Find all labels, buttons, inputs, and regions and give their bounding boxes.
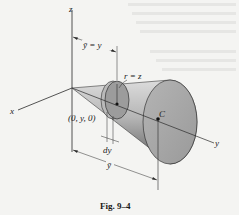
y-axis-label: y bbox=[214, 138, 219, 148]
disk-point-label: (0, y, 0) bbox=[68, 113, 96, 123]
centroid-label: C bbox=[159, 109, 166, 119]
z-axis-label: z bbox=[68, 4, 73, 14]
dy-label: dy bbox=[103, 145, 112, 155]
dy-dimension bbox=[101, 136, 119, 142]
background-bleed-text bbox=[128, 3, 236, 71]
ybar-dimension bbox=[73, 150, 157, 180]
ybar-equals-y-label: ȳ = y bbox=[82, 40, 102, 50]
x-axis bbox=[18, 88, 72, 110]
r-equals-z-label: r = z bbox=[124, 71, 142, 81]
figure-caption: Fig. 9–4 bbox=[100, 201, 131, 211]
x-axis-label: x bbox=[9, 106, 14, 116]
cone-centroid-diagram: z x r = z y C ȳ = y (0, y, 0) dy ȳ Fig. … bbox=[0, 0, 239, 215]
cone-base bbox=[143, 80, 197, 164]
